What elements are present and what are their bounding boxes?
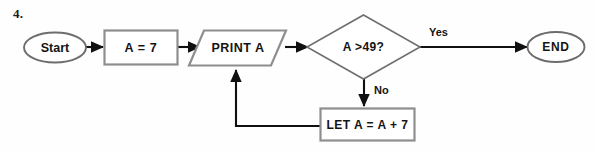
decision-label: A >49? <box>343 40 385 54</box>
flowchart-page: 4. Yes No Start A = 7 <box>0 0 595 151</box>
assign-label: A = 7 <box>125 41 158 55</box>
print-label: PRINT A <box>211 41 264 55</box>
node-print[interactable]: PRINT A <box>189 31 286 66</box>
node-assign[interactable]: A = 7 <box>105 31 178 65</box>
let-label: LET A = A + 7 <box>326 118 408 132</box>
node-let[interactable]: LET A = A + 7 <box>321 109 415 141</box>
node-start[interactable]: Start <box>24 33 86 63</box>
flowchart-canvas: Yes No Start A = 7 PRINT A A >49? END <box>0 0 595 151</box>
node-end[interactable]: END <box>528 32 585 62</box>
edge-label-no: No <box>374 84 389 96</box>
edge-label-yes: Yes <box>429 26 448 38</box>
end-label: END <box>542 40 569 54</box>
start-label: Start <box>41 41 70 55</box>
node-decision[interactable]: A >49? <box>307 15 420 79</box>
edge-let-to-print-loop <box>236 70 320 126</box>
